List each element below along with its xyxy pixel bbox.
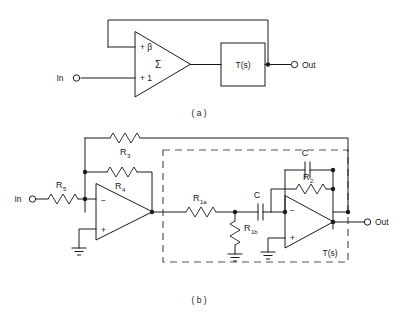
opamp1-ground-wire (79, 229, 96, 248)
r5-resistor-zigzag (48, 194, 78, 204)
c-series-label: C (254, 190, 261, 200)
r1b-resistor-zigzag (230, 221, 240, 245)
figure-root: In + β + 1 Σ T(s) Out ( a ) T(s) R 3 (0, 0, 399, 317)
panel-a-feedback-wire (108, 20, 268, 62)
r5-label-sub: 5 (63, 186, 67, 192)
panel-a-output-terminal[interactable] (291, 61, 297, 67)
opamp2-inverting-pin-label: − (290, 205, 295, 215)
r3-right-wire (140, 138, 348, 212)
c-feedback-label: C (302, 148, 309, 158)
opamp1-noninverting-pin-label: + (101, 225, 106, 235)
r4-label-base: R (115, 181, 122, 191)
r1a-label-sub: 1a (200, 199, 207, 205)
opamp1-inverting-pin-label: − (101, 195, 106, 205)
panel-a-unity-pin-label: + 1 (140, 73, 152, 83)
opamp2-noninverting-pin-label: + (290, 233, 295, 243)
panel-b-input-terminal[interactable] (29, 196, 35, 202)
sigma-symbol: Σ (155, 59, 161, 70)
r5-label-base: R (56, 180, 63, 190)
r3-resistor-zigzag (110, 133, 140, 143)
panel-a-beta-pin-label: + β (140, 42, 152, 52)
opamp2-ground-wire (268, 238, 285, 252)
panel-a-input-label: In (56, 73, 63, 83)
panel-a-output-label: Out (302, 60, 316, 70)
r2-label-base: R (303, 172, 310, 182)
r1a-label-base: R (193, 193, 200, 203)
panel-b-caption: ( b ) (191, 295, 206, 305)
r4-resistor-zigzag (107, 167, 137, 177)
panel-b-input-label: In (14, 194, 21, 204)
r2-resistor-zigzag (296, 184, 326, 194)
panel-a-block-label: T(s) (235, 60, 250, 70)
r3-label-base: R (120, 147, 127, 157)
schematic-canvas: In + β + 1 Σ T(s) Out ( a ) T(s) R 3 (0, 0, 399, 317)
panel-a-output-junction-dot (266, 62, 270, 66)
panel-a: In + β + 1 Σ T(s) Out ( a ) (56, 20, 316, 118)
panel-b-output-terminal[interactable] (364, 219, 370, 225)
panel-a-input-terminal[interactable] (73, 75, 79, 81)
panel-b-dashed-block-label: T(s) (322, 248, 337, 258)
t-of-s-dashed-enclosure (163, 150, 348, 262)
r1a-resistor-zigzag (186, 207, 216, 217)
r4-label-sub: 4 (122, 187, 126, 193)
panel-a-caption: ( a ) (191, 108, 206, 118)
panel-b-output-label: Out (375, 217, 389, 227)
r1b-label-sub: 1b (251, 229, 258, 235)
r2-label-sub: 2 (310, 178, 314, 184)
r3-label-sub: 3 (127, 153, 131, 159)
r4-tap-junction-dot (83, 170, 87, 174)
r1b-label-base: R (244, 223, 251, 233)
panel-b: T(s) R 3 R 4 In R 5 − + (14, 133, 389, 305)
